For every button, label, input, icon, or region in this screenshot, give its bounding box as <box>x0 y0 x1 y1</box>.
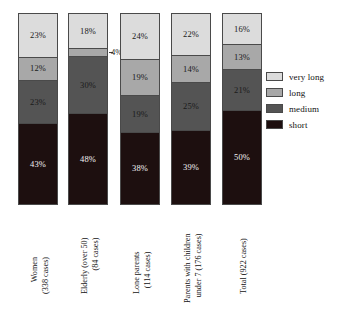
bar-lone-parents: 24%19%19%38% <box>120 13 160 205</box>
bar-segment-women-long: 12% <box>19 58 57 81</box>
bar-total: 16%13%21%50% <box>222 13 262 205</box>
x-axis-label-total: Total (922 cases) <box>239 238 250 294</box>
bar-segment-women-short: 43% <box>19 124 57 204</box>
plot-area: 23%12%23%43%Women(338 cases)18%4%30%48%E… <box>0 0 342 310</box>
segment-value-label: 30% <box>80 81 96 90</box>
bar-segment-parents-children-under-7-medium: 25% <box>172 83 210 131</box>
x-axis-label-line: under 7 (176 cases) <box>194 233 205 303</box>
segment-value-label: 24% <box>132 32 148 41</box>
legend-item-very-long: very long <box>266 70 338 83</box>
x-axis-label-lone-parents: Lone parents(114 cases) <box>132 251 153 294</box>
stacked-bar-chart: 23%12%23%43%Women(338 cases)18%4%30%48%E… <box>0 0 342 310</box>
x-axis-label-line: Women <box>30 257 41 294</box>
segment-value-label: 14% <box>183 65 199 74</box>
bar-segment-elderly-medium: 30% <box>69 57 107 114</box>
legend-label: long <box>289 88 305 98</box>
segment-value-label: 18% <box>80 27 96 36</box>
bar-segment-women-very-long: 23% <box>19 14 57 58</box>
bar-segment-parents-children-under-7-very-long: 22% <box>172 14 210 56</box>
legend-item-short: short <box>266 118 338 131</box>
x-axis-label-line: Parents with children <box>183 233 194 303</box>
legend-swatch-icon <box>266 72 283 81</box>
segment-value-label: 21% <box>234 86 250 95</box>
legend-item-medium: medium <box>266 102 338 115</box>
x-axis-label-elderly: Elderly (over 50)(84 cases) <box>80 238 101 294</box>
chart-legend: very longlongmediumshort <box>266 70 338 134</box>
x-axis-label-parents-children-under-7: Parents with childrenunder 7 (176 cases) <box>183 233 204 303</box>
bar-segment-lone-parents-short: 38% <box>121 133 159 204</box>
bar-parents-children-under-7: 22%14%25%39% <box>171 13 211 205</box>
segment-value-label: 50% <box>234 153 250 162</box>
bar-women: 23%12%23%43% <box>18 13 58 205</box>
segment-value-label: 43% <box>30 160 46 169</box>
bar-segment-women-medium: 23% <box>19 81 57 125</box>
legend-swatch-icon <box>266 104 283 113</box>
bar-segment-elderly-long: 4% <box>69 49 107 57</box>
segment-value-label: 19% <box>132 110 148 119</box>
segment-value-label: 23% <box>30 31 46 40</box>
segment-value-label: 48% <box>80 155 96 164</box>
legend-label: short <box>289 120 308 130</box>
legend-swatch-icon <box>266 120 283 129</box>
bar-segment-total-long: 13% <box>223 45 261 70</box>
segment-value-label: 25% <box>183 102 199 111</box>
segment-value-label: 13% <box>234 53 250 62</box>
legend-swatch-icon <box>266 88 283 97</box>
x-axis-label-line: Elderly (over 50) <box>80 238 91 294</box>
bar-segment-lone-parents-very-long: 24% <box>121 14 159 60</box>
bar-elderly: 18%4%30%48% <box>68 13 108 205</box>
bar-segment-total-medium: 21% <box>223 70 261 110</box>
x-axis-label-line: (84 cases) <box>91 238 102 294</box>
bar-segment-parents-children-under-7-short: 39% <box>172 131 210 204</box>
segment-value-label: 12% <box>30 64 46 73</box>
bar-segment-total-very-long: 16% <box>223 14 261 45</box>
segment-value-label: 16% <box>234 25 250 34</box>
legend-item-long: long <box>266 86 338 99</box>
bar-segment-elderly-very-long: 18% <box>69 14 107 49</box>
legend-label: medium <box>289 104 319 114</box>
bar-segment-total-short: 50% <box>223 111 261 205</box>
x-axis-label-line: Lone parents <box>132 251 143 294</box>
x-axis-label-line: Total (922 cases) <box>239 238 250 294</box>
segment-value-label: 38% <box>132 164 148 173</box>
x-axis-label-line: (114 cases) <box>143 251 154 294</box>
segment-value-label: 19% <box>132 73 148 82</box>
segment-value-label: 22% <box>183 30 199 39</box>
segment-value-label: 23% <box>30 98 46 107</box>
x-axis-label-women: Women(338 cases) <box>30 257 51 294</box>
x-axis-label-line: (338 cases) <box>41 257 52 294</box>
bar-segment-lone-parents-medium: 19% <box>121 96 159 133</box>
bar-segment-elderly-short: 48% <box>69 114 107 204</box>
bar-segment-parents-children-under-7-long: 14% <box>172 56 210 83</box>
bar-segment-lone-parents-long: 19% <box>121 60 159 97</box>
legend-label: very long <box>289 72 324 82</box>
segment-value-label: 39% <box>183 163 199 172</box>
